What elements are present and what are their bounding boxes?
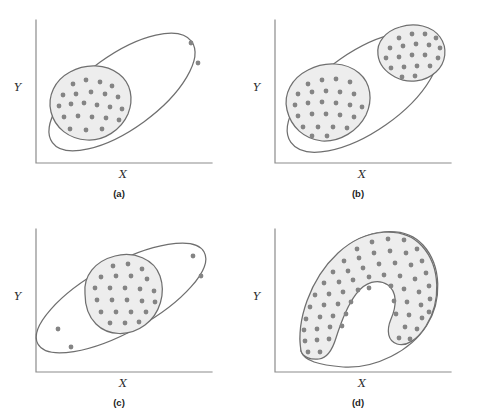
panel-d-y-axis-label: Y <box>253 291 260 302</box>
panel-d-x-axis-label: X <box>358 378 366 389</box>
panel-b-y-axis-label: Y <box>253 82 260 93</box>
panel-a: Y X (a) <box>0 0 238 209</box>
panel-c-caption: (c) <box>0 398 238 408</box>
panel-c: Y X (c) <box>0 209 238 418</box>
panel-b-caption: (b) <box>239 189 477 199</box>
panel-b: Y X (b) <box>239 0 477 209</box>
panel-b-cluster-blob-left <box>286 64 370 141</box>
figure-container: Y X (a) <box>0 0 477 418</box>
panel-a-cluster-blob <box>50 66 131 140</box>
panel-a-x-axis-label: X <box>119 169 127 180</box>
panel-a-y-axis-label: Y <box>14 82 21 93</box>
panel-c-y-axis-label: Y <box>14 291 21 302</box>
panel-d: Y X (d) <box>239 209 477 418</box>
panel-b-x-axis-label: X <box>358 169 366 180</box>
panel-d-caption: (d) <box>239 398 477 408</box>
panel-c-x-axis-label: X <box>119 378 127 389</box>
panel-a-caption: (a) <box>0 189 238 199</box>
